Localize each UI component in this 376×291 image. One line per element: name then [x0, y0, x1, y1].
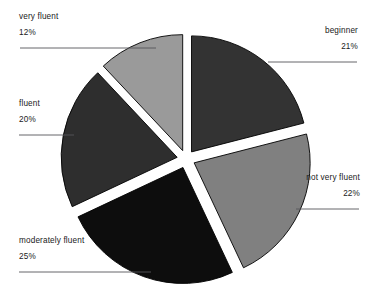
pie-label-very-fluent: very fluent 12%: [19, 13, 58, 37]
pie-label-fluent: fluent 20%: [19, 100, 40, 124]
pie-slice-group: [61, 35, 310, 284]
pie-label-category-beginner: beginner: [325, 27, 358, 36]
pie-label-percent-moderately-fluent: 25%: [19, 253, 84, 262]
pie-label-moderately-fluent: moderately fluent 25%: [19, 237, 84, 261]
pie-label-category-fluent: fluent: [19, 100, 40, 109]
pie-label-percent-beginner: 21%: [325, 43, 358, 52]
pie-label-category-moderately-fluent: moderately fluent: [19, 237, 84, 246]
pie-label-not-very-fluent: not very fluent 22%: [306, 174, 360, 198]
pie-label-category-very-fluent: very fluent: [19, 13, 58, 22]
pie-label-beginner: beginner 21%: [325, 27, 358, 51]
pie-chart-figure: very fluent 12% fluent 20% moderately fl…: [0, 0, 376, 291]
pie-label-percent-very-fluent: 12%: [19, 29, 58, 38]
pie-slice-beginner: [192, 36, 304, 152]
pie-label-category-not-very-fluent: not very fluent: [306, 174, 360, 183]
pie-label-percent-not-very-fluent: 22%: [306, 190, 360, 199]
pie-label-percent-fluent: 20%: [19, 116, 40, 125]
